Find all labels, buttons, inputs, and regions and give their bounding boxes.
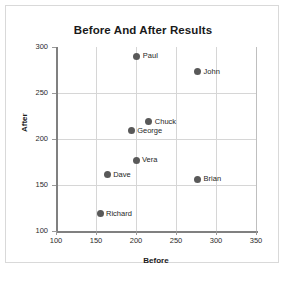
x-axis-tick-label: 150	[81, 237, 111, 245]
y-axis-tick-label: 250	[22, 89, 48, 97]
y-axis-tick	[52, 231, 56, 232]
y-axis-tick-label: 300	[22, 43, 48, 51]
data-point	[133, 53, 140, 60]
chart-title: Before And After Results	[6, 24, 280, 36]
y-axis-tick	[52, 93, 56, 94]
x-axis-tick-label: 200	[121, 237, 151, 245]
data-point-label: Chuck	[155, 118, 176, 126]
y-axis-title: After	[20, 113, 29, 132]
gridline-horizontal	[56, 139, 256, 140]
y-axis-line	[56, 47, 58, 233]
x-axis-tick	[216, 231, 217, 235]
data-point-label: Dave	[113, 171, 131, 179]
data-point-label: George	[137, 127, 162, 135]
data-point-label: John	[204, 68, 220, 76]
y-axis-tick-label: 200	[22, 135, 48, 143]
y-axis-tick	[52, 139, 56, 140]
y-axis-tick-label: 100	[22, 227, 48, 235]
data-point-label: Vera	[142, 156, 157, 164]
data-point-label: Brian	[204, 175, 222, 183]
x-axis-tick-label: 350	[241, 237, 271, 245]
x-axis-tick	[256, 231, 257, 235]
x-axis-tick	[96, 231, 97, 235]
x-axis-tick-label: 300	[201, 237, 231, 245]
x-axis-tick	[136, 231, 137, 235]
plot-area	[56, 47, 256, 231]
data-point-label: Paul	[143, 52, 158, 60]
gridline-horizontal	[56, 185, 256, 186]
x-axis-tick	[56, 231, 57, 235]
y-axis-tick-label: 150	[22, 181, 48, 189]
chart-container: Before And After Results Before After 10…	[5, 5, 279, 263]
data-point	[133, 157, 140, 164]
data-point-label: Richard	[106, 210, 132, 218]
x-axis-title: Before	[56, 256, 256, 265]
x-axis-tick	[176, 231, 177, 235]
data-point	[97, 210, 104, 217]
x-axis-tick-label: 250	[161, 237, 191, 245]
y-axis-tick	[52, 185, 56, 186]
x-axis-line	[56, 231, 258, 233]
gridline-horizontal	[56, 93, 256, 94]
plot-right-edge	[256, 47, 257, 231]
data-point	[194, 176, 201, 183]
data-point	[128, 127, 135, 134]
y-axis-tick	[52, 47, 56, 48]
x-axis-tick-label: 100	[41, 237, 71, 245]
